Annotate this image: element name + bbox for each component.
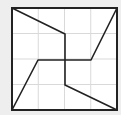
- pinwheel-diagram: [0, 0, 121, 115]
